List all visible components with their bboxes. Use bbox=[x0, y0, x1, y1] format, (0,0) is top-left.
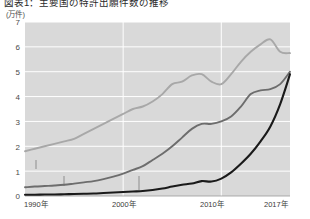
chart-plot-area bbox=[0, 0, 310, 219]
plot-background bbox=[25, 22, 290, 196]
chart-container: 図表1：主要国の特許出願件数の推移 (万件) 7 6 5 4 3 2 1 0 1… bbox=[0, 0, 310, 219]
